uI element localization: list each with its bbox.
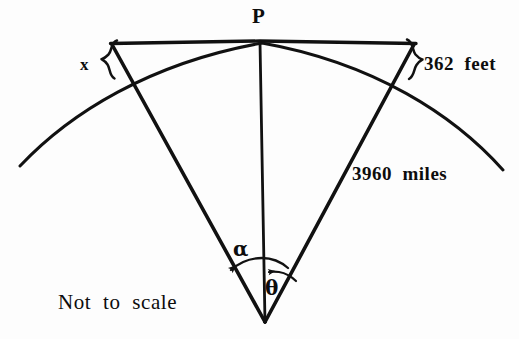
- segment-x-label: x: [80, 56, 89, 73]
- not-to-scale-note: Not to scale: [58, 292, 177, 313]
- left-radius-line: [112, 45, 265, 323]
- radius-length-label: 3960 miles: [352, 164, 447, 183]
- point-p-label: P: [252, 6, 265, 27]
- geometry-diagram: P x 362 feet 3960 miles α θ Not to scale: [0, 0, 519, 339]
- arc-length-label: 362 feet: [424, 54, 496, 73]
- angle-alpha-label: α: [233, 239, 248, 259]
- angle-theta-label: θ: [265, 278, 278, 298]
